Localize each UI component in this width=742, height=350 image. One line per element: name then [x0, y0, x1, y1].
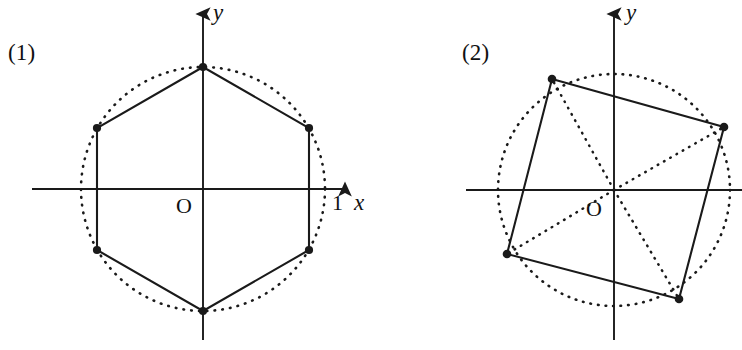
panel-2-vertex-dot — [548, 75, 557, 84]
panel-1-vertex-dot — [305, 246, 313, 254]
panel-1-vertex-dot — [93, 246, 101, 254]
panel-2-vertex-dot — [675, 295, 684, 304]
panel-2-origin-label: O — [586, 196, 602, 222]
panel-1-x-axis-label: x — [354, 190, 364, 216]
panel-1-label: (1) — [8, 40, 35, 66]
panel-1-vertex-dot — [305, 124, 313, 132]
figure-board: (1) y x 1 O (2) y O — [0, 0, 742, 350]
panel-2-group — [466, 14, 742, 340]
panel-1-group — [32, 14, 345, 340]
panel-1-origin-label: O — [176, 193, 192, 219]
panel-2-label: (2) — [462, 40, 489, 66]
panel-1-y-axis-label: y — [213, 0, 223, 26]
panel-2-vertex-dot — [503, 250, 512, 259]
figures-svg — [0, 0, 742, 350]
panel-2-vertex-dot — [720, 123, 729, 132]
panel-2-radius — [552, 79, 614, 190]
panel-1-vertex-dot — [199, 307, 207, 315]
panel-1-vertex-dot — [93, 124, 101, 132]
panel-2-radius — [614, 190, 679, 299]
panel-2-radius — [614, 127, 724, 190]
panel-1-vertex-dot — [199, 63, 207, 71]
panel-1-x-tick-label: 1 — [332, 190, 343, 216]
panel-2-y-axis-label: y — [626, 0, 636, 26]
